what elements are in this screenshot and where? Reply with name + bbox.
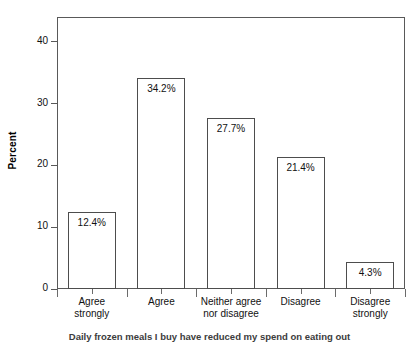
bar-value-label: 21.4% (278, 162, 324, 173)
bar: 27.7% (207, 118, 255, 289)
x-axis-category-label-line: Agree (57, 296, 127, 308)
bar-value-label: 27.7% (208, 123, 254, 134)
y-tick-label: 0 (42, 282, 48, 293)
x-axis-category-label: Agree (127, 296, 197, 308)
y-tick-label: 20 (37, 158, 48, 169)
figure-caption: Daily frozen meals I buy have reduced my… (0, 331, 419, 342)
bar: 21.4% (277, 157, 325, 289)
bar-value-label: 34.2% (138, 83, 184, 94)
y-tick-mark (51, 227, 57, 228)
x-tick-major (92, 289, 93, 294)
y-axis-title: Percent (7, 116, 18, 186)
x-axis-category-label-line: strongly (335, 308, 405, 320)
y-tick-mark (51, 103, 57, 104)
x-tick-major (301, 289, 302, 294)
bar-value-label: 4.3% (347, 267, 393, 278)
bar: 4.3% (346, 262, 394, 289)
bar: 34.2% (137, 78, 185, 289)
bar-value-label: 12.4% (69, 217, 115, 228)
x-axis-category-label-line: Disagree (335, 296, 405, 308)
y-tick-mark (51, 41, 57, 42)
bar: 12.4% (68, 212, 116, 289)
x-tick-major (231, 289, 232, 294)
x-axis-category-label: Disagreestrongly (335, 296, 405, 320)
x-axis-category-label-line: Disagree (266, 296, 336, 308)
y-tick-label: 40 (37, 35, 48, 46)
x-axis-category-label-line: Neither agree (196, 296, 266, 308)
x-tick-major (161, 289, 162, 294)
y-tick-label: 30 (37, 97, 48, 108)
x-axis-category-label-line: Agree (127, 296, 197, 308)
x-axis-category-label: Agreestrongly (57, 296, 127, 320)
x-axis-category-label: Neither agreenor disagree (196, 296, 266, 320)
x-tick-major (370, 289, 371, 294)
y-tick-mark (51, 165, 57, 166)
x-axis-category-label: Disagree (266, 296, 336, 308)
y-tick-label: 10 (37, 220, 48, 231)
x-axis-category-label-line: strongly (57, 308, 127, 320)
x-axis-category-label-line: nor disagree (196, 308, 266, 320)
x-tick-minor (405, 289, 406, 297)
